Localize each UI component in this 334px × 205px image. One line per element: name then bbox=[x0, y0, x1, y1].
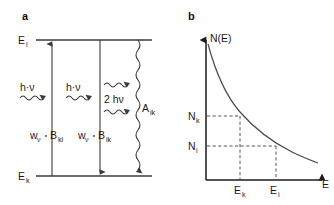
energy-level-upper-label: E bbox=[18, 34, 25, 46]
x-tick-label-ek: E bbox=[234, 184, 241, 196]
y-axis-label: N(E) bbox=[210, 32, 232, 44]
x-tick-sub-ek: k bbox=[242, 190, 246, 199]
photon-wave-stimulated-out-2 bbox=[104, 110, 128, 114]
coefficient-dot-ki bbox=[45, 135, 47, 137]
coefficient-a-ik-sub: ik bbox=[150, 108, 156, 117]
photon-energy-label-absorption: h·ν bbox=[20, 81, 35, 93]
y-tick-label-ni: N bbox=[188, 140, 196, 152]
photon-wave-absorption bbox=[20, 96, 44, 100]
spontaneous-emission-wavy-arrow bbox=[136, 40, 140, 170]
panel-b-letter: b bbox=[188, 10, 195, 22]
population-curve bbox=[208, 44, 318, 163]
photon-energy-label-two-photon: 2 hν bbox=[104, 93, 124, 105]
figure-root: a b E i E k h·ν h·ν 2 hν w ν B ki w ν B … bbox=[0, 0, 334, 205]
y-tick-label-nk: N bbox=[188, 110, 196, 122]
energy-level-lower-sub: k bbox=[26, 176, 30, 185]
coefficient-dot-ik bbox=[93, 135, 95, 137]
coefficient-w-ik-sub: ν bbox=[85, 135, 89, 144]
photon-energy-label-stimulated: h·ν bbox=[66, 81, 81, 93]
photon-wave-stimulated-out-1 bbox=[104, 83, 128, 87]
x-tick-sub-ei: i bbox=[278, 190, 280, 199]
coefficient-w-ki-sub: ν bbox=[37, 135, 41, 144]
coefficient-b-ik-sub: ik bbox=[106, 135, 112, 144]
panel-a-letter: a bbox=[22, 10, 29, 22]
y-tick-sub-nk: k bbox=[196, 116, 200, 125]
coefficient-b-ik: B bbox=[98, 129, 105, 141]
coefficient-b-ki: B bbox=[50, 129, 57, 141]
energy-level-lower-label: E bbox=[18, 170, 25, 182]
x-tick-label-ei: E bbox=[270, 184, 277, 196]
panel-a bbox=[20, 40, 152, 176]
figure-svg: a b E i E k h·ν h·ν 2 hν w ν B ki w ν B … bbox=[0, 0, 334, 205]
photon-wave-stimulated-in bbox=[66, 96, 90, 100]
coefficient-b-ki-sub: ki bbox=[58, 135, 64, 144]
y-tick-sub-ni: i bbox=[196, 146, 198, 155]
panel-b bbox=[206, 40, 322, 180]
coefficient-a-ik: A bbox=[142, 102, 149, 114]
x-axis-label: E bbox=[322, 178, 329, 190]
energy-level-upper-sub: i bbox=[26, 40, 28, 49]
